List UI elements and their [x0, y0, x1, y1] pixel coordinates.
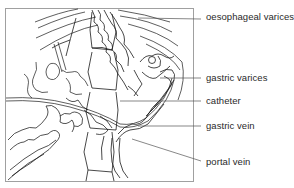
gastric-varices-drawing — [128, 54, 175, 116]
label-portal-vein: portal vein — [206, 157, 250, 167]
catheter-drawing — [6, 78, 174, 127]
leader-oesophageal-varices — [138, 18, 201, 19]
label-oesophageal-varices: oesophageal varices — [206, 12, 294, 22]
leader-portal-vein — [132, 139, 201, 161]
label-catheter: catheter — [206, 96, 241, 106]
figure-frame — [6, 9, 194, 182]
label-gastric-vein: gastric vein — [206, 121, 255, 131]
splenic-vessels — [24, 42, 88, 98]
organ-contours — [8, 98, 112, 180]
label-gastric-varices: gastric varices — [206, 73, 267, 83]
oesophageal-varices-drawing — [92, 10, 134, 90]
anatomy-figure: oesophageal varices gastric varices cath… — [0, 0, 294, 188]
